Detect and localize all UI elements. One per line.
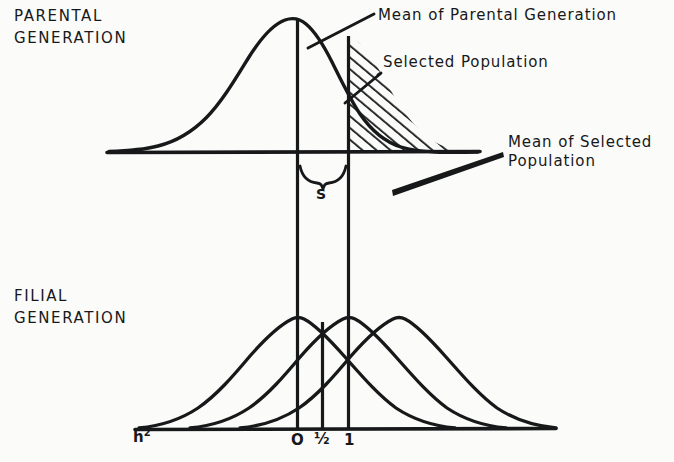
filial-generation-title: FILIALGENERATION xyxy=(14,286,127,330)
mean-parental-leader-line xyxy=(308,14,374,48)
parental-distribution-curve xyxy=(109,19,478,153)
mean-of-selected-population-label: Mean of SelectedPopulation xyxy=(508,133,652,171)
filial-generation-title-line2: GENERATION xyxy=(14,309,127,327)
parental-generation-title-line2: GENERATION xyxy=(14,29,127,47)
heritability-axis-label: h2 xyxy=(133,426,151,449)
parental-baseline-axis xyxy=(107,152,480,153)
mean-of-parental-generation-label: Mean of Parental Generation xyxy=(378,5,617,27)
diagram-canvas xyxy=(0,0,674,462)
parental-generation-title-line1: PARENTAL xyxy=(14,7,103,25)
filial-generation-title-line1: FILIAL xyxy=(14,287,68,305)
heritability-axis-label-base: h xyxy=(133,428,144,446)
parental-generation-title: PARENTALGENERATION xyxy=(14,6,127,50)
mean-of-selected-population-label-line1: Mean of Selected xyxy=(508,133,652,151)
axis-tick-label-zero: O xyxy=(291,430,304,452)
axis-tick-label-one: 1 xyxy=(344,430,355,452)
mean-of-selected-population-label-line2: Population xyxy=(508,152,596,170)
heritability-axis-label-exponent: 2 xyxy=(144,427,151,438)
selected-population-label: Selected Population xyxy=(383,52,549,74)
axis-tick-label-half: ½ xyxy=(314,429,330,451)
mean-selected-leader-line xyxy=(392,152,504,196)
selection-response-diagram: PARENTALGENERATION FILIALGENERATION Mean… xyxy=(0,0,674,462)
selection-differential-label: S xyxy=(316,184,327,204)
